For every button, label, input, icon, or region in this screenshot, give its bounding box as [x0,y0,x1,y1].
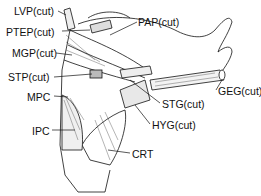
label-stg: STG(cut) [162,99,205,110]
label-lvp: LVP(cut) [14,6,54,17]
label-pap: PAP(cut) [138,17,179,28]
label-stp: STP(cut) [8,72,49,83]
label-mpc: MPC [27,92,50,103]
label-ipc: IPC [32,126,50,137]
label-hyg: HYG(cut) [152,120,196,131]
label-crt: CRT [132,149,153,160]
label-ptep: PTEP(cut) [6,27,54,38]
label-geg: GEG(cut) [218,86,261,97]
anatomy-figure: LVP(cut) PTEP(cut) MGP(cut) STP(cut) MPC… [0,0,261,196]
label-mgp: MGP(cut) [12,48,57,59]
